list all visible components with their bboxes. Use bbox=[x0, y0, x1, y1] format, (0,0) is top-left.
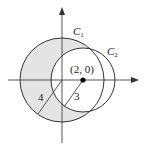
diagram: (2, 0) 4 3 C1 C2 bbox=[0, 0, 149, 147]
radius-label-c2: 3 bbox=[74, 90, 80, 102]
circle-c2-label: C2 bbox=[107, 45, 118, 59]
radius-label-c1: 4 bbox=[38, 91, 44, 103]
x-axis-arrow-icon bbox=[131, 77, 139, 83]
center-point bbox=[80, 77, 85, 82]
y-axis-arrow-icon bbox=[59, 7, 65, 15]
circle-c1-label: C1 bbox=[73, 25, 84, 39]
center-point-label: (2, 0) bbox=[70, 63, 94, 76]
